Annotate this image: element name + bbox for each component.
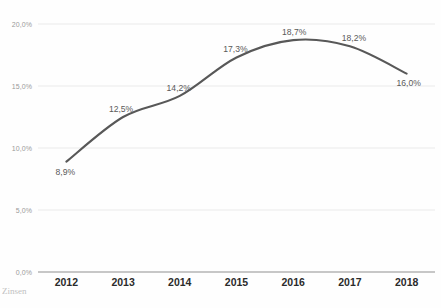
caption-cut-text: Zinsen: [2, 286, 27, 296]
data-point-labels: 8,9%12,5%14,2%17,3%18,7%18,2%16,0%: [56, 27, 422, 177]
y-axis-tick-label: 5,0%: [16, 207, 32, 214]
y-axis-tick-labels: 0,0%5,0%10,0%15,0%20,0%: [12, 21, 32, 276]
chart-figure: 0,0%5,0%10,0%15,0%20,0% 8,9%12,5%14,2%17…: [0, 0, 441, 308]
data-point-label: 18,2%: [342, 33, 367, 43]
data-line-series: [66, 40, 406, 162]
y-axis-tick-label: 20,0%: [12, 21, 32, 28]
y-axis-tick-label: 10,0%: [12, 145, 32, 152]
data-point-label: 17,3%: [223, 44, 248, 54]
data-point-label: 8,9%: [56, 167, 76, 177]
y-axis-tick-label: 15,0%: [12, 83, 32, 90]
y-axis-tick-label: 0,0%: [16, 269, 32, 276]
chart-plot-area: 0,0%5,0%10,0%15,0%20,0% 8,9%12,5%14,2%17…: [0, 0, 441, 288]
data-point-label: 16,0%: [396, 78, 421, 88]
caption-strip: Zinsen: [0, 286, 441, 308]
data-point-label: 14,2%: [167, 83, 192, 93]
line-chart-svg: 0,0%5,0%10,0%15,0%20,0% 8,9%12,5%14,2%17…: [0, 0, 441, 288]
data-point-label: 12,5%: [109, 104, 134, 114]
data-point-label: 18,7%: [282, 27, 307, 37]
